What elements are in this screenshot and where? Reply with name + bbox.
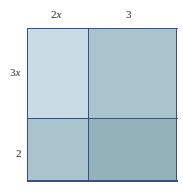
border-bottom (27, 180, 178, 182)
region-top-left (27, 28, 88, 119)
border-left (27, 28, 28, 181)
top-label-3: 3 (126, 9, 132, 20)
top-label-2x: 2x (51, 9, 61, 20)
variable: x (57, 8, 62, 20)
border-right (176, 28, 177, 181)
region-bottom-left (27, 119, 88, 181)
coefficient: 2 (16, 147, 22, 159)
variable: x (16, 66, 21, 78)
divider-horizontal (27, 118, 178, 119)
area-model-diagram: 2x 3 3x 2 (0, 0, 183, 190)
region-bottom-right (88, 119, 177, 181)
left-label-2: 2 (16, 148, 22, 159)
region-top-right (88, 28, 177, 119)
left-label-3x: 3x (10, 67, 20, 78)
border-top (27, 28, 178, 29)
coefficient: 3 (126, 8, 132, 20)
divider-vertical (88, 28, 89, 181)
